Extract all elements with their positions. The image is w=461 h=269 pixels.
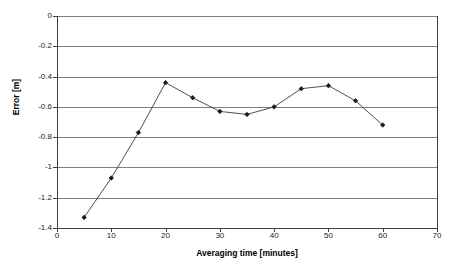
data-point-marker: [218, 109, 223, 114]
data-line-error: [84, 83, 383, 218]
data-point-marker: [190, 95, 195, 100]
plot-area: [0, 0, 461, 269]
chart-container: Error [m] Averaging time [minutes] 0-0.2…: [0, 0, 461, 269]
data-point-marker: [245, 112, 250, 117]
data-point-marker: [136, 130, 141, 135]
data-point-marker: [163, 80, 168, 85]
data-point-marker: [326, 83, 331, 88]
